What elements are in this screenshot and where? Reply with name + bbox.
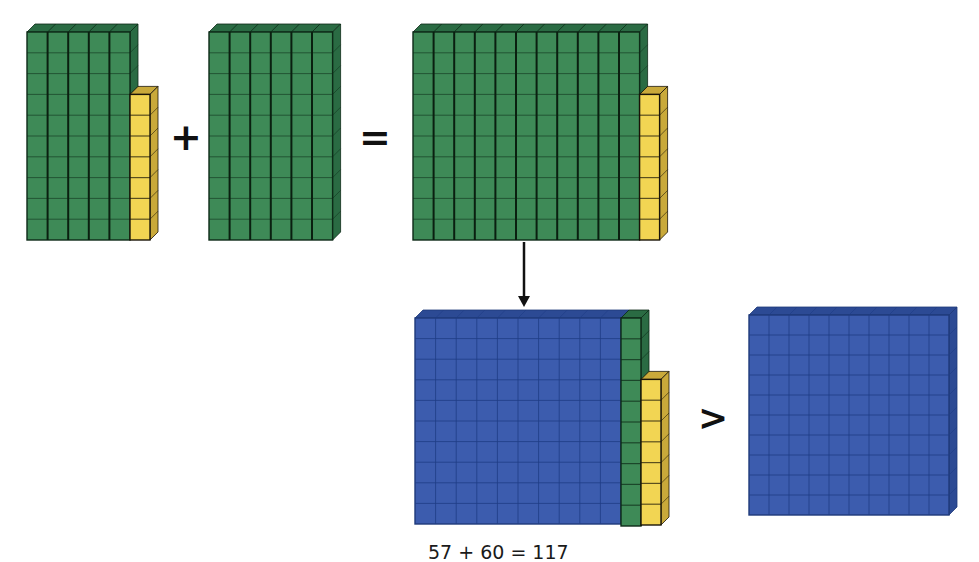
tens-rods-5 — [27, 24, 138, 240]
greater-than-symbol: > — [698, 400, 728, 436]
equals-symbol: = — [359, 118, 391, 156]
equation-caption: 57 + 60 = 117 — [428, 541, 569, 562]
unit-cubes-7 — [130, 86, 158, 240]
regroup-arrow-icon — [518, 242, 530, 307]
unit-cubes-7-regrouped — [641, 371, 669, 525]
block-57 — [0, 0, 979, 562]
hundred-flat-117 — [415, 310, 629, 524]
plus-symbol: + — [170, 118, 202, 156]
tens-rods-6 — [209, 24, 341, 240]
base-ten-blocks-57 — [0, 0, 979, 562]
unit-cubes-7-sum — [640, 86, 668, 240]
tens-rods-11 — [413, 24, 648, 240]
hundred-flat-100 — [749, 307, 957, 515]
